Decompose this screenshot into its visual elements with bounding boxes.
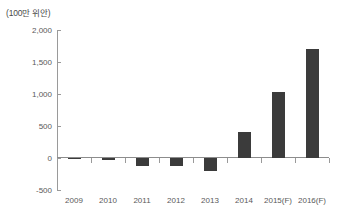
bar <box>238 132 251 158</box>
plot-area: 2,0001,5001,0005000-500 2009201020112012… <box>57 30 329 190</box>
y-axis-line <box>57 30 58 190</box>
bar <box>170 158 183 166</box>
bar <box>102 158 115 160</box>
x-axis-tick-label: 2010 <box>99 196 117 205</box>
x-axis-tick <box>261 158 262 163</box>
x-axis-tick <box>329 158 330 163</box>
y-axis-tick <box>57 30 61 31</box>
bar <box>68 158 81 159</box>
x-axis-tick <box>159 158 160 163</box>
x-axis-tick-label: 2012 <box>167 196 185 205</box>
y-axis-tick-label: 1,000 <box>32 90 52 99</box>
y-axis-tick-label: 2,000 <box>32 26 52 35</box>
y-axis-tick <box>57 190 61 191</box>
x-axis-tick-label: 2015(F) <box>264 196 292 205</box>
x-axis-tick-label: 2016(F) <box>298 196 326 205</box>
x-axis-tick-label: 2011 <box>133 196 150 205</box>
y-axis-tick <box>57 62 61 63</box>
bar <box>306 49 319 158</box>
x-axis-tick <box>57 158 58 163</box>
y-axis-unit-label: (100만 위안) <box>6 6 50 18</box>
bar <box>204 158 217 171</box>
y-axis-tick <box>57 126 61 127</box>
x-axis-tick <box>295 158 296 163</box>
x-axis-tick-label: 2009 <box>65 196 83 205</box>
x-axis-tick-label: 2014 <box>235 196 253 205</box>
bar <box>272 92 285 158</box>
x-axis-tick <box>227 158 228 163</box>
x-axis-tick <box>91 158 92 163</box>
y-axis-tick <box>57 94 61 95</box>
bar-chart: (100만 위안) 2,0001,5001,0005000-500 200920… <box>0 0 337 218</box>
y-axis-tick-label: 1,500 <box>32 58 52 67</box>
x-axis-tick <box>125 158 126 163</box>
y-axis-tick-label: 0 <box>48 154 52 163</box>
x-axis-tick <box>193 158 194 163</box>
y-axis-tick-label: -500 <box>36 186 52 195</box>
bar <box>136 158 149 166</box>
x-axis-tick-label: 2013 <box>201 196 219 205</box>
y-axis-tick-label: 500 <box>39 122 52 131</box>
